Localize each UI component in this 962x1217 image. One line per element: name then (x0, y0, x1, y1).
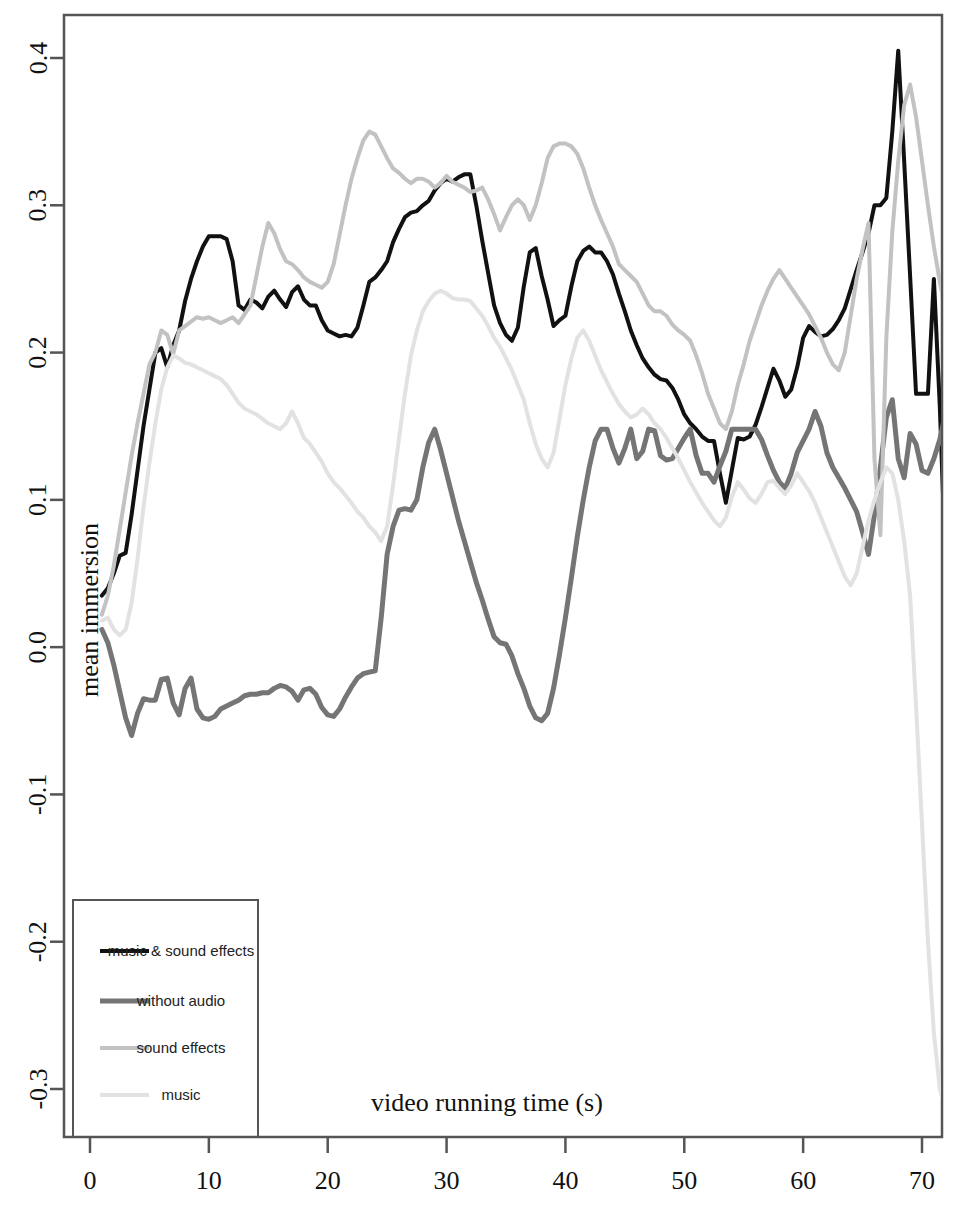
x-tick-label: 40 (552, 1166, 578, 1195)
x-tick-label: 0 (84, 1166, 97, 1195)
y-tick-label: 0.0 (24, 631, 53, 664)
x-axis-title: video running time (s) (371, 1088, 603, 1117)
y-tick-label: -0.2 (24, 921, 53, 962)
x-tick-label: 70 (909, 1166, 935, 1195)
legend-label-3: music (161, 1086, 201, 1103)
chart-background (0, 0, 962, 1217)
y-tick-label: 0.4 (24, 42, 53, 75)
y-tick-label: 0.3 (24, 189, 53, 222)
x-tick-label: 30 (434, 1166, 460, 1195)
y-tick-label: -0.3 (24, 1068, 53, 1109)
mean-immersion-line-chart: 0.40.30.20.10.0-0.1-0.2-0.3 010203040506… (0, 0, 962, 1217)
legend-label-2: sound effects (137, 1039, 226, 1056)
y-tick-label: 0.2 (24, 336, 53, 369)
x-tick-label: 20 (315, 1166, 341, 1195)
legend-label-1: without audio (136, 992, 225, 1009)
y-tick-label: -0.1 (24, 774, 53, 815)
x-tick-label: 60 (790, 1166, 816, 1195)
y-axis-title: mean immersion (75, 523, 104, 697)
y-tick-label: 0.1 (24, 484, 53, 517)
x-tick-label: 50 (671, 1166, 697, 1195)
chart-figure: 0.40.30.20.10.0-0.1-0.2-0.3 010203040506… (0, 0, 962, 1217)
x-tick-label: 10 (196, 1166, 222, 1195)
legend-label-0: music & sound effects (108, 942, 254, 959)
